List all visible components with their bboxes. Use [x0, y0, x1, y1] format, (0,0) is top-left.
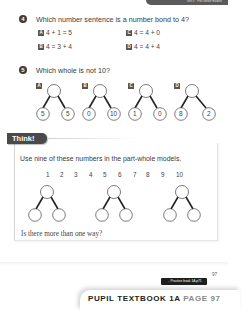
number-4: 4: [89, 171, 93, 178]
option-a-text: 4 + 1 = 5: [46, 29, 72, 36]
model-b-part-1: 0: [87, 110, 91, 117]
number-5: 5: [103, 171, 107, 178]
option-c-text: 4 = 4 + 0: [134, 29, 160, 36]
empty-model-3[interactable]: [159, 183, 205, 229]
model-a-badge: A: [36, 83, 42, 89]
model-d-part-1: 8: [179, 110, 183, 117]
question-5-text: Which whole is not 10?: [36, 66, 110, 75]
q4-option-b[interactable]: B 4 = 3 + 4: [38, 43, 72, 50]
number-1: 1: [46, 171, 50, 178]
question-4-text: Which number sentence is a number bond t…: [36, 15, 189, 24]
number-2: 2: [60, 171, 64, 178]
option-c-badge: C: [126, 30, 132, 36]
unit-header-text: Unit 4 · Part-whole models: [187, 0, 222, 3]
q5-model-d[interactable]: D 8 2: [171, 79, 223, 127]
think-instruction: Use nine of these numbers in the part-wh…: [20, 155, 181, 162]
model-c-part-2: 0: [158, 110, 162, 117]
page-number: 97: [212, 272, 217, 277]
option-a-badge: A: [38, 30, 44, 36]
q4-option-a[interactable]: A 4 + 1 = 5: [38, 29, 72, 36]
model-b-badge: B: [82, 83, 88, 89]
model-c-badge: C: [128, 83, 134, 89]
option-d-badge: D: [126, 44, 132, 50]
q4-option-c[interactable]: C 4 = 4 + 0: [126, 29, 160, 36]
think-divider: [47, 138, 137, 139]
empty-part-whole-icon: [91, 183, 137, 229]
footer-banner: PUPIL TEXTBOOK 1A PAGE 97: [88, 294, 221, 303]
option-b-badge: B: [38, 44, 44, 50]
number-9: 9: [161, 171, 165, 178]
practice-book-link[interactable]: → Practice book 1A p71: [161, 278, 207, 285]
question-4-number: 4: [19, 15, 27, 23]
number-8: 8: [146, 171, 150, 178]
page-edge-shadow: [0, 262, 228, 266]
q4-option-d[interactable]: D 4 = 4 + 4: [126, 43, 160, 50]
model-d-badge: D: [174, 83, 180, 89]
think-heading: Think!: [7, 133, 47, 144]
q5-model-c[interactable]: C 1 0: [125, 79, 173, 127]
think-question: Is there more than one way?: [21, 230, 102, 238]
empty-part-whole-icon: [159, 183, 205, 229]
model-c-part-1: 1: [133, 110, 137, 117]
empty-part-whole-icon: [24, 183, 70, 229]
q5-model-a[interactable]: A 5 5: [33, 79, 81, 127]
footer-banner-page: PAGE 97: [183, 294, 220, 303]
empty-model-2[interactable]: [91, 183, 137, 229]
option-b-text: 4 = 3 + 4: [46, 43, 72, 50]
model-a-part-1: 5: [41, 110, 45, 117]
number-7: 7: [133, 171, 137, 178]
footer-banner-title: PUPIL TEXTBOOK 1A: [88, 294, 180, 303]
question-5-number: 5: [19, 66, 27, 74]
empty-model-1[interactable]: [24, 183, 70, 229]
number-10: 10: [176, 171, 183, 178]
q5-model-b[interactable]: B 0 10: [79, 79, 127, 127]
model-b-part-2: 10: [110, 110, 117, 117]
model-a-part-2: 5: [66, 110, 70, 117]
option-d-text: 4 = 4 + 4: [134, 43, 160, 50]
model-d-part-2: 2: [207, 110, 211, 117]
unit-header-tab: Unit 4 · Part-whole models: [146, 0, 228, 5]
number-3: 3: [74, 171, 78, 178]
number-6: 6: [118, 171, 122, 178]
